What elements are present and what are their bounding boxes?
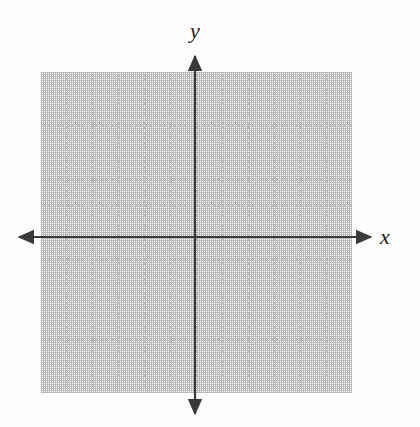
coordinate-plane-figure: y x [0,0,420,427]
x-axis-label: x [380,226,390,248]
axes [0,0,420,427]
y-axis-label: y [190,20,200,42]
